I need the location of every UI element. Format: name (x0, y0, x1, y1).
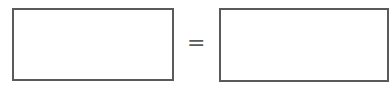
left-answer-box[interactable] (12, 8, 174, 81)
equals-sign: = (187, 33, 203, 53)
right-answer-box[interactable] (219, 8, 389, 82)
